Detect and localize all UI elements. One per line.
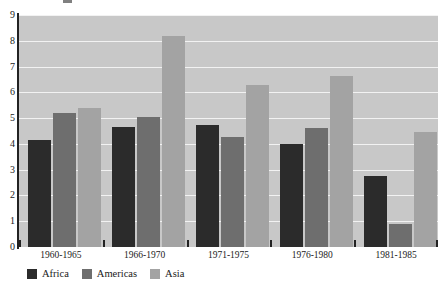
- legend-swatch-icon: [82, 269, 92, 279]
- y-axis-tick-label: 6: [1, 87, 15, 97]
- bar: [389, 224, 412, 247]
- x-axis-tick: [436, 240, 438, 247]
- x-axis-tick: [270, 240, 272, 247]
- bar: [78, 108, 101, 247]
- bar: [112, 127, 135, 247]
- x-axis-tick: [187, 240, 189, 247]
- y-axis-tick-labels: 0123456789: [0, 0, 15, 287]
- y-axis-tick-label: 2: [1, 190, 15, 200]
- x-axis-tick-label: 1981-1985: [354, 250, 438, 261]
- legend-item: Asia: [150, 268, 184, 279]
- y-axis-tick-label: 3: [1, 165, 15, 175]
- legend-label: Americas: [97, 268, 137, 279]
- bar: [330, 76, 353, 247]
- y-axis-tick-label: 7: [1, 62, 15, 72]
- bar: [280, 144, 303, 247]
- bar: [28, 140, 51, 247]
- bar: [196, 125, 219, 247]
- x-axis-tick: [354, 240, 356, 247]
- bar: [221, 137, 244, 247]
- x-axis-tick: [19, 240, 21, 247]
- y-axis-tick-label: 0: [1, 242, 15, 252]
- legend-label: Africa: [42, 268, 69, 279]
- y-axis-tick-label: 5: [1, 113, 15, 123]
- legend-label: Asia: [165, 268, 184, 279]
- legend-swatch-icon: [27, 269, 37, 279]
- legend-item: Africa: [27, 268, 69, 279]
- plot-area: [19, 15, 438, 247]
- y-axis-tick-label: 4: [1, 139, 15, 149]
- y-axis-tick-label: 8: [1, 36, 15, 46]
- bar: [53, 113, 76, 247]
- x-axis-tick-label: 1960-1965: [19, 250, 103, 261]
- x-axis-tick-label: 1966-1970: [103, 250, 187, 261]
- gridline: [19, 92, 438, 93]
- bar: [414, 132, 437, 247]
- gridline: [19, 15, 438, 16]
- x-axis-tick-label: 1976-1980: [270, 250, 354, 261]
- legend-swatch-icon: [150, 269, 160, 279]
- gridline: [19, 67, 438, 68]
- bar: [162, 36, 185, 247]
- y-axis-tick-label: 9: [1, 10, 15, 20]
- x-axis-tick: [103, 240, 105, 247]
- chart-legend: AfricaAmericasAsia: [27, 268, 184, 279]
- bar: [364, 176, 387, 247]
- y-axis-tick-label: 1: [1, 216, 15, 226]
- x-axis-tick-label: 1971-1975: [187, 250, 271, 261]
- bar: [137, 117, 160, 247]
- bar-chart-figure: 0123456789 1960-19651966-19701971-197519…: [0, 0, 445, 287]
- legend-item: Americas: [82, 268, 137, 279]
- cropped-text-artifact: [63, 0, 72, 3]
- bar: [305, 128, 328, 247]
- bar: [246, 85, 269, 247]
- gridline: [19, 41, 438, 42]
